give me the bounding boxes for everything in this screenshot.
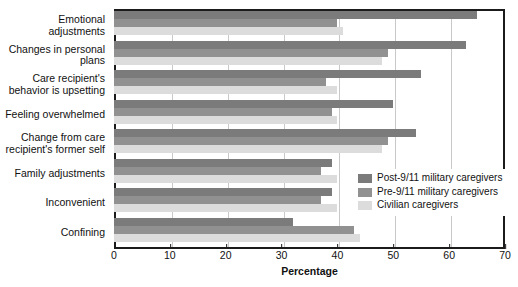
bar — [114, 57, 382, 65]
x-axis-tick-label: 70 — [499, 249, 511, 261]
y-axis-tick-label: Feeling overwhelmed — [0, 100, 110, 130]
y-axis-tick-label: Care recipient's behavior is upsetting — [0, 70, 110, 100]
bar — [114, 100, 393, 108]
x-axis-tick-label: 40 — [332, 249, 344, 261]
legend-label: Pre-9/11 military caregivers — [377, 186, 498, 198]
bar-chart: Emotional adjustments Changes in persona… — [0, 0, 518, 287]
bar — [114, 49, 388, 57]
x-axis-ticks: 010203040506070 — [114, 249, 505, 265]
x-axis-tick-label: 0 — [111, 249, 117, 261]
x-axis-tick-mark — [114, 244, 115, 249]
bar-group — [114, 218, 505, 248]
legend-swatch — [358, 188, 372, 197]
x-axis-title: Percentage — [114, 265, 505, 277]
bar-group — [114, 41, 505, 71]
x-axis-tick-mark — [449, 244, 450, 249]
legend-swatch — [358, 201, 372, 210]
x-axis-tick-mark — [505, 244, 506, 249]
bar — [114, 159, 332, 167]
x-axis-tick-mark — [282, 244, 283, 249]
x-axis-tick-mark — [393, 244, 394, 249]
bar — [114, 234, 360, 242]
bar — [114, 175, 337, 183]
legend-label: Civilian caregivers — [377, 199, 458, 211]
x-axis-tick-mark — [337, 244, 338, 249]
y-axis-labels: Emotional adjustments Changes in persona… — [0, 11, 110, 247]
legend-swatch — [358, 174, 372, 183]
bar — [114, 188, 332, 196]
bar — [114, 226, 354, 234]
bar — [114, 167, 321, 175]
y-axis-tick-label: Emotional adjustments — [0, 11, 110, 41]
x-axis-tick-mark — [226, 244, 227, 249]
y-axis-tick-label: Change from care recipient's former self — [0, 129, 110, 159]
x-axis-tick-label: 10 — [164, 249, 176, 261]
bar — [114, 116, 337, 124]
legend-item: Pre-9/11 military caregivers — [358, 186, 505, 198]
x-axis-tick-mark — [170, 244, 171, 249]
legend-label: Post-9/11 military caregivers — [377, 172, 502, 184]
bar-group — [114, 70, 505, 100]
y-axis-tick-label: Confining — [0, 218, 110, 248]
y-axis-tick-label: Changes in personal plans — [0, 41, 110, 71]
bar — [114, 108, 332, 116]
bar-group — [114, 129, 505, 159]
bar — [114, 41, 466, 49]
bar — [114, 137, 388, 145]
bar — [114, 70, 421, 78]
bar — [114, 27, 343, 35]
bar — [114, 145, 382, 153]
bar — [114, 78, 326, 86]
bar — [114, 218, 293, 226]
bar — [114, 196, 321, 204]
chart-legend: Post-9/11 military caregiversPre-9/11 mi… — [355, 169, 507, 216]
y-axis-tick-label: Inconvenient — [0, 188, 110, 218]
legend-item: Civilian caregivers — [358, 199, 505, 211]
x-axis-tick-label: 20 — [220, 249, 232, 261]
x-axis-tick-label: 30 — [276, 249, 288, 261]
bar-group — [114, 100, 505, 130]
y-axis-tick-label: Family adjustments — [0, 159, 110, 189]
bar — [114, 86, 337, 94]
x-axis-tick-label: 60 — [443, 249, 455, 261]
x-axis-tick-label: 50 — [387, 249, 399, 261]
bar — [114, 11, 477, 19]
bar — [114, 204, 337, 212]
bar — [114, 129, 416, 137]
legend-item: Post-9/11 military caregivers — [358, 172, 505, 184]
bar — [114, 19, 337, 27]
bar-group — [114, 11, 505, 41]
